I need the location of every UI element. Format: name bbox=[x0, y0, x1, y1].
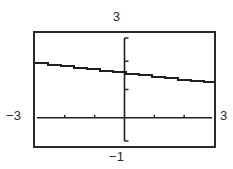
window-xmin-label: −3 bbox=[6, 109, 21, 122]
window-ymax-label: 3 bbox=[0, 10, 233, 23]
plot-area bbox=[35, 33, 214, 146]
plot-svg bbox=[35, 33, 214, 146]
window-xmax-label: 3 bbox=[220, 109, 227, 122]
window-ymin-label: −1 bbox=[0, 150, 233, 163]
y-axis bbox=[125, 38, 129, 141]
calculator-screen bbox=[33, 31, 216, 148]
